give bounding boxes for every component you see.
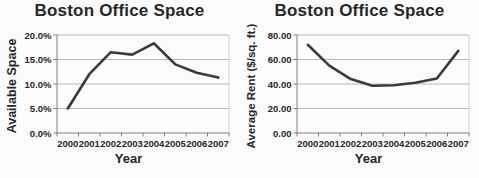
- figure: Boston Office Space Available Space 0.0%…: [0, 0, 479, 178]
- x-tick-label: 2006: [426, 138, 447, 149]
- x-tick-label: 2003: [362, 138, 383, 149]
- series-line: [308, 45, 459, 86]
- y-tick-label: 15.0%: [25, 54, 52, 65]
- x-tick-label: 2006: [186, 138, 207, 149]
- x-tick-label: 2002: [100, 138, 121, 149]
- x-tick-label: 2001: [319, 138, 341, 149]
- y-tick-label: 20.00: [268, 103, 292, 114]
- x-tick-label: 2004: [143, 138, 165, 149]
- x-axis-title: Year: [28, 151, 229, 166]
- y-tick-label: 0.00: [273, 128, 292, 139]
- chart-available-space: Boston Office Space Available Space 0.0%…: [0, 0, 239, 178]
- x-tick-label: 2007: [208, 138, 229, 149]
- x-tick-label: 2003: [122, 138, 143, 149]
- x-tick-label: 2002: [340, 138, 361, 149]
- y-tick-label: 10.0%: [25, 79, 52, 90]
- series-line: [68, 43, 219, 108]
- y-tick-label: 5.0%: [30, 103, 52, 114]
- x-tick-label: 2000: [297, 138, 318, 149]
- x-tick-label: 2007: [448, 138, 469, 149]
- chart-average-rent: Boston Office Space Average Rent ($/sq. …: [240, 0, 479, 178]
- x-tick-label: 2005: [165, 138, 187, 149]
- x-tick-label: 2004: [383, 138, 405, 149]
- y-tick-label: 60.00: [268, 54, 292, 65]
- x-axis-title: Year: [268, 151, 469, 166]
- x-tick-label: 2000: [57, 138, 78, 149]
- y-tick-label: 40.00: [268, 79, 292, 90]
- x-tick-label: 2005: [405, 138, 427, 149]
- y-tick-label: 20.0%: [25, 30, 52, 41]
- y-tick-label: 80.00: [268, 30, 292, 41]
- x-tick-label: 2001: [79, 138, 101, 149]
- y-tick-label: 0.0%: [30, 128, 52, 139]
